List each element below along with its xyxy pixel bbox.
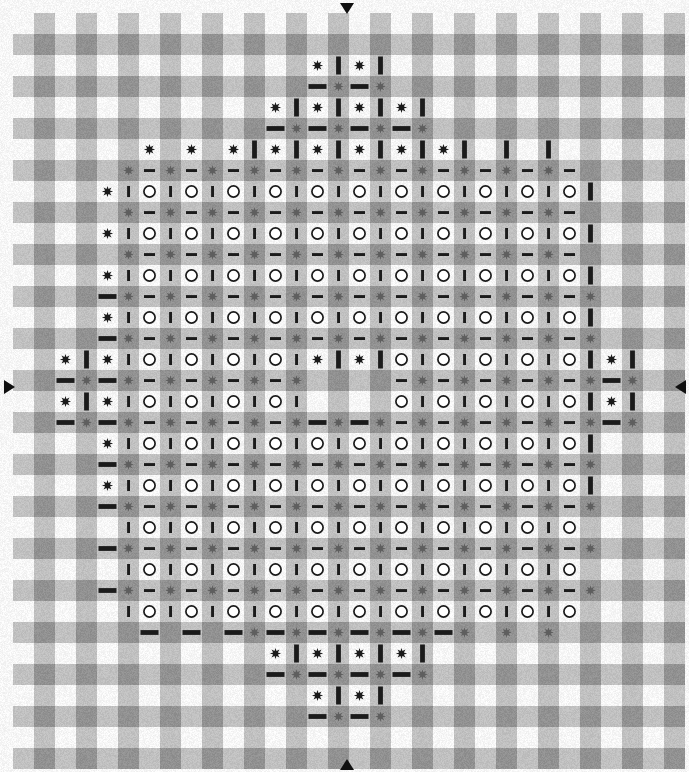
gingham-pattern-canvas <box>0 0 689 772</box>
center-marker-right-icon <box>675 380 686 394</box>
center-marker-left-icon <box>4 380 15 394</box>
center-marker-top-icon <box>340 3 354 14</box>
pattern-chart: Chicken Scratch Gingham Embroidery Chart… <box>0 0 689 772</box>
center-marker-bottom-icon <box>340 759 354 770</box>
